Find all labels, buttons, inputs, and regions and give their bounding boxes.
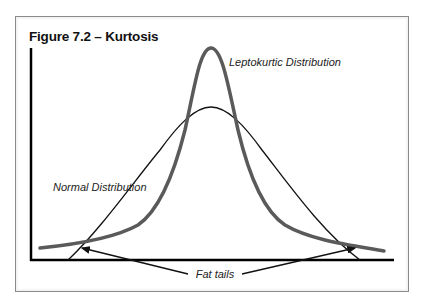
normal-label: Normal Distribution <box>53 181 147 193</box>
fat-tails-label: Fat tails <box>196 268 235 280</box>
kurtosis-chart: Leptokurtic Distribution Normal Distribu… <box>0 0 425 308</box>
leptokurtic-label: Leptokurtic Distribution <box>229 56 341 68</box>
leptokurtic-distribution-curve <box>40 48 384 251</box>
